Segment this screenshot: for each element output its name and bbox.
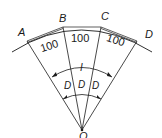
- angle-label-D3: D: [92, 80, 99, 91]
- angle-label-I: I: [80, 62, 83, 73]
- arrow-icon: [52, 72, 57, 77]
- arrow-icon: [97, 95, 101, 99]
- label-C: C: [101, 10, 109, 22]
- arrow-icon: [107, 72, 112, 77]
- label-D-point: D: [145, 28, 153, 40]
- length-AB: 100: [39, 37, 60, 54]
- angle-label-D2: D: [78, 79, 85, 90]
- curve-diagram: A B C D O 100 100 100 I D D D: [0, 0, 162, 138]
- angle-arc-D: [63, 95, 101, 100]
- label-O: O: [79, 130, 88, 138]
- length-CD: 100: [105, 31, 126, 48]
- arrow-icon: [63, 95, 67, 99]
- label-B: B: [59, 12, 66, 24]
- length-BC: 100: [71, 32, 89, 44]
- angle-label-D1: D: [64, 80, 71, 91]
- label-A: A: [17, 26, 25, 38]
